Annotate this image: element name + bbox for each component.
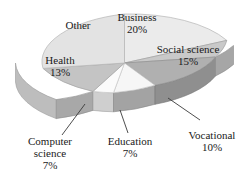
slice-label-health: Health 13% — [34, 55, 86, 79]
slice-side-health — [56, 91, 93, 118]
slice-label-education-pct: 7% — [98, 148, 162, 160]
slice-label-social-science: Social science 15% — [142, 44, 234, 68]
slice-label-computer-science-line2: science — [13, 148, 87, 160]
slice-label-vocational: Vocational 10% — [176, 130, 248, 154]
slice-side-computer-science — [93, 91, 114, 111]
slice-label-vocational-name: Vocational — [189, 129, 236, 141]
slice-label-computer-science: Computer science 7% — [13, 136, 87, 172]
slice-label-social-science-pct: 15% — [142, 56, 234, 68]
slice-label-vocational-pct: 10% — [176, 142, 248, 154]
slice-label-education: Education 7% — [98, 136, 162, 160]
slice-label-computer-science-line1: Computer — [28, 135, 72, 147]
slice-label-social-science-name: Social science — [157, 43, 220, 55]
leader-line-vocational — [168, 98, 200, 120]
leader-line-education — [120, 110, 128, 133]
slice-label-business: Business 20% — [108, 12, 166, 36]
slice-label-other: Other — [50, 20, 106, 32]
slice-label-health-name: Health — [45, 54, 74, 66]
slice-label-other-name: Other — [65, 19, 90, 31]
slice-label-health-pct: 13% — [34, 67, 86, 79]
pie-chart-figure: Business 20% Social science 15% Other He… — [0, 0, 251, 183]
slice-label-business-pct: 20% — [108, 24, 166, 36]
slice-label-education-name: Education — [108, 135, 153, 147]
slice-label-computer-science-pct: 7% — [13, 160, 87, 172]
slice-label-business-name: Business — [117, 11, 156, 23]
